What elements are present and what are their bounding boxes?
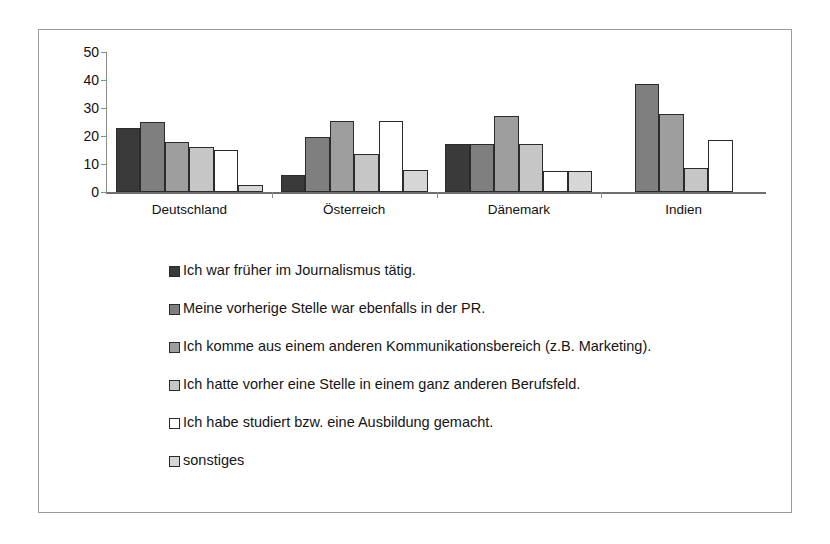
bar bbox=[445, 144, 470, 192]
y-axis-tick bbox=[101, 108, 107, 109]
x-category-label: Indien bbox=[665, 202, 702, 217]
bar bbox=[140, 122, 165, 192]
y-tick-label: 30 bbox=[53, 101, 99, 115]
legend-swatch-icon bbox=[169, 380, 180, 391]
y-axis-tick-labels: 01020304050 bbox=[53, 52, 99, 192]
bar bbox=[379, 121, 404, 192]
x-axis-category-labels: DeutschlandÖsterreichDänemarkIndien bbox=[107, 202, 766, 226]
legend-item[interactable]: sonstiges bbox=[169, 442, 779, 480]
bar bbox=[354, 154, 379, 192]
bar bbox=[635, 84, 660, 192]
bar bbox=[708, 140, 733, 192]
x-axis-tick bbox=[601, 192, 602, 198]
bar bbox=[543, 171, 568, 192]
x-axis-tick bbox=[272, 192, 273, 198]
plot-area: 01020304050 DeutschlandÖsterreichDänemar… bbox=[39, 30, 793, 230]
bar bbox=[659, 114, 684, 192]
bar bbox=[470, 144, 495, 192]
x-category-label: Dänemark bbox=[488, 202, 550, 217]
legend-swatch-icon bbox=[169, 266, 180, 277]
chart-frame: 01020304050 DeutschlandÖsterreichDänemar… bbox=[38, 29, 792, 513]
x-category-label: Deutschland bbox=[152, 202, 227, 217]
bar bbox=[214, 150, 239, 192]
legend-label: Ich war früher im Journalismus tätig. bbox=[183, 262, 416, 279]
bar bbox=[281, 175, 306, 192]
legend-swatch-icon bbox=[169, 304, 180, 315]
bar bbox=[238, 185, 263, 192]
y-axis-tick bbox=[101, 80, 107, 81]
y-tick-label: 10 bbox=[53, 157, 99, 171]
legend-label: Ich habe studiert bzw. eine Ausbildung g… bbox=[183, 414, 493, 431]
y-tick-label: 0 bbox=[53, 185, 99, 199]
chart-legend: Ich war früher im Journalismus tätig.Mei… bbox=[169, 252, 779, 480]
bar bbox=[116, 128, 141, 192]
bar bbox=[684, 168, 709, 192]
legend-item[interactable]: Ich hatte vorher eine Stelle in einem ga… bbox=[169, 366, 779, 404]
legend-label: Ich komme aus einem anderen Kommunikatio… bbox=[183, 338, 651, 355]
legend-swatch-icon bbox=[169, 418, 180, 429]
bar bbox=[568, 171, 593, 192]
y-axis-tick bbox=[101, 136, 107, 137]
legend-item[interactable]: Meine vorherige Stelle war ebenfalls in … bbox=[169, 290, 779, 328]
legend-item[interactable]: Ich komme aus einem anderen Kommunikatio… bbox=[169, 328, 779, 366]
legend-swatch-icon bbox=[169, 456, 180, 467]
y-axis-tick bbox=[101, 52, 107, 53]
legend-label: Meine vorherige Stelle war ebenfalls in … bbox=[183, 300, 485, 317]
bars-layer bbox=[107, 52, 766, 192]
bar bbox=[305, 137, 330, 192]
y-tick-label: 50 bbox=[53, 45, 99, 59]
bar bbox=[403, 170, 428, 192]
y-tick-label: 40 bbox=[53, 73, 99, 87]
screenshot-root: 01020304050 DeutschlandÖsterreichDänemar… bbox=[0, 0, 830, 544]
x-category-label: Österreich bbox=[323, 202, 385, 217]
legend-label: Ich hatte vorher eine Stelle in einem ga… bbox=[183, 376, 580, 393]
legend-item[interactable]: Ich habe studiert bzw. eine Ausbildung g… bbox=[169, 404, 779, 442]
bar bbox=[165, 142, 190, 192]
legend-item[interactable]: Ich war früher im Journalismus tätig. bbox=[169, 252, 779, 290]
bar bbox=[330, 121, 355, 192]
legend-swatch-icon bbox=[169, 342, 180, 353]
legend-label: sonstiges bbox=[183, 452, 244, 469]
y-axis-tick bbox=[101, 192, 107, 193]
bar bbox=[519, 144, 544, 192]
bar bbox=[494, 116, 519, 192]
bar bbox=[189, 147, 214, 192]
y-tick-label: 20 bbox=[53, 129, 99, 143]
x-axis-tick bbox=[437, 192, 438, 198]
y-axis-tick bbox=[101, 164, 107, 165]
